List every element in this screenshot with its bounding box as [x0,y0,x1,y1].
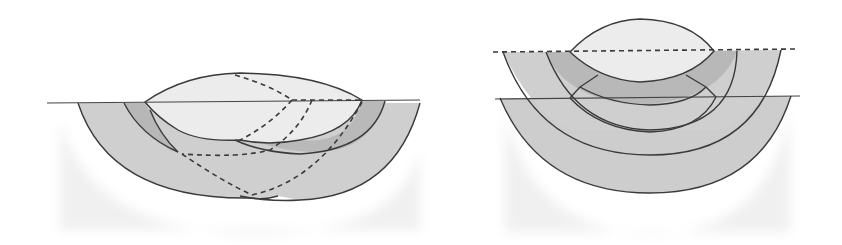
diagram-canvas [0,0,842,245]
right-figure [493,19,800,235]
left-figure [47,73,420,235]
